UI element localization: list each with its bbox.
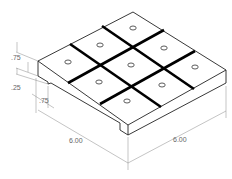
dim-step-width: .75: [39, 97, 49, 104]
dim-length-left: 6.00: [69, 137, 83, 144]
dim-length-right: 6.00: [173, 136, 187, 143]
dim-step-height: .25: [11, 84, 21, 91]
dim-top-height: .75: [11, 54, 21, 61]
isometric-drawing: .75 .25 .75 6.00 6.00: [0, 0, 232, 179]
drawing-svg: .75 .25 .75 6.00 6.00: [0, 0, 232, 179]
